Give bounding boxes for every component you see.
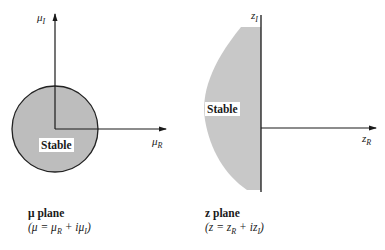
z-plane-caption: z plane (z = zR + izI) xyxy=(205,206,264,239)
z-def-b: + iz xyxy=(236,221,257,233)
z-def-c: ) xyxy=(260,221,264,233)
mu-real-axis-label: μR xyxy=(152,135,162,150)
mu-plane-caption: μ plane (μ = μR + iμI) xyxy=(28,206,91,239)
mu-def-c: ) xyxy=(87,221,91,233)
subscript-r: R xyxy=(158,141,163,150)
z-real-axis-label: zR xyxy=(362,132,371,147)
subscript-r: R xyxy=(366,138,371,147)
z-plane-title: z plane xyxy=(205,206,264,220)
subscript-i: I xyxy=(255,15,258,24)
mu-def-b: + iμ xyxy=(62,221,84,233)
mu-imag-axis-label: μI xyxy=(37,11,45,26)
mu-plane-definition: (μ = μR + iμI) xyxy=(28,220,91,239)
mu-plane-title: μ plane xyxy=(28,206,91,220)
stable-label-mu: Stable xyxy=(39,138,74,152)
z-imag-axis-label: zI xyxy=(251,9,258,24)
z-plane-definition: (z = zR + izI) xyxy=(205,220,264,239)
z-def-a: (z = z xyxy=(205,221,231,233)
mu-def-a: (μ = μ xyxy=(28,221,57,233)
stable-label-z: Stable xyxy=(205,102,240,116)
subscript-i: I xyxy=(43,17,46,26)
